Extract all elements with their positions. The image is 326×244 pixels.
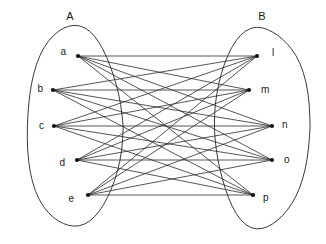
node-dot-l[interactable] — [255, 54, 259, 58]
node-dot-n[interactable] — [270, 124, 274, 128]
set-label-a: A — [66, 10, 74, 22]
node-dot-e[interactable] — [86, 193, 90, 197]
edge-b-p — [53, 90, 253, 195]
edge-e-l — [88, 56, 257, 195]
bipartite-graph-figure: abcdelmnop AB — [0, 0, 326, 244]
set-label-layer: AB — [66, 10, 265, 22]
edge-c-o — [54, 126, 272, 160]
node-dot-c[interactable] — [52, 124, 56, 128]
edge-b-l — [53, 56, 257, 90]
graph-canvas: abcdelmnop AB — [0, 0, 326, 244]
node-dot-m[interactable] — [247, 88, 251, 92]
edge-c-p — [54, 126, 253, 195]
node-label-d: d — [59, 157, 65, 168]
edge-layer — [53, 56, 272, 195]
node-dot-p[interactable] — [251, 193, 255, 197]
node-label-o: o — [284, 154, 290, 165]
edge-a-p — [78, 56, 253, 195]
edge-b-n — [53, 90, 272, 126]
node-dot-a[interactable] — [76, 54, 80, 58]
node-dot-b[interactable] — [51, 88, 55, 92]
node-label-l: l — [272, 47, 274, 58]
node-label-n: n — [282, 119, 288, 130]
node-label-p: p — [263, 192, 269, 203]
edge-e-n — [88, 126, 272, 195]
edge-d-m — [77, 90, 249, 160]
node-dot-o[interactable] — [270, 158, 274, 162]
node-dot-d[interactable] — [75, 158, 79, 162]
node-label-c: c — [39, 120, 44, 131]
node-label-m: m — [261, 84, 269, 95]
edge-a-m — [78, 56, 249, 90]
node-label-a: a — [60, 46, 66, 57]
node-label-e: e — [68, 193, 74, 204]
set-label-b: B — [258, 10, 265, 22]
edge-c-l — [54, 56, 257, 126]
node-label-b: b — [37, 83, 43, 94]
edge-d-p — [77, 160, 253, 195]
